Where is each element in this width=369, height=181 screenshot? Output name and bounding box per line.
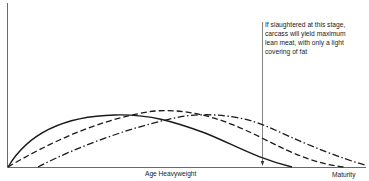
annotation-line: lean meat, with only a light [265, 38, 346, 47]
solid-curve [8, 115, 292, 167]
x-axis-label-age-heavyweight: Age Heavyweight [145, 170, 196, 177]
annotation-line: carcass will yield maximum [265, 29, 346, 38]
annotation-line: covering of fat [265, 47, 346, 56]
arrowhead-icon [261, 161, 264, 166]
dashed-curve [8, 111, 345, 167]
annotation-text: If slaughtered at this stage, carcass wi… [265, 20, 346, 56]
dash-dot-curve [38, 115, 365, 167]
annotation-line: If slaughtered at this stage, [265, 20, 346, 29]
x-axis-label-maturity: Maturity [332, 171, 355, 178]
